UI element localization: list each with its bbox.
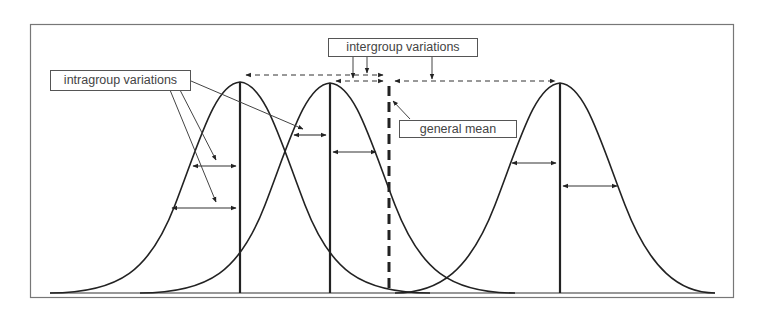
bell-curve-group-2 bbox=[140, 83, 515, 293]
intragroup-variations-label: intragroup variations bbox=[50, 70, 191, 91]
general-mean-pointer bbox=[393, 101, 410, 119]
diagram-canvas: intragroup variations intergroup variati… bbox=[0, 0, 769, 312]
intragroup-pointer-3 bbox=[191, 81, 303, 129]
intragroup-pointer-1 bbox=[180, 90, 216, 160]
bell-curve-group-3 bbox=[395, 83, 715, 293]
diagram-frame bbox=[31, 25, 734, 298]
intergroup-variations-label: intergroup variations bbox=[328, 38, 478, 57]
general-mean-label: general mean bbox=[399, 120, 517, 138]
